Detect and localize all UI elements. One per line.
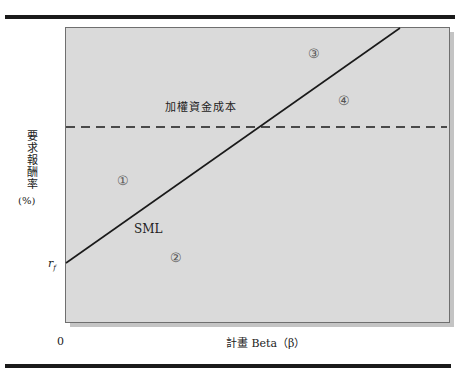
sml-line [66,28,400,263]
region-4-marker: ④ [338,93,350,108]
region-2-marker: ② [170,250,182,265]
sml-label: SML [134,222,162,236]
origin-label: 0 [57,335,64,348]
chart-lines [0,0,468,377]
region-3-marker: ③ [308,46,320,61]
region-1-marker: ① [117,173,129,188]
wacc-label: 加權資金成本 [165,98,237,114]
x-axis-label: 計畫 Beta（β） [226,334,305,350]
risk-free-rate-label: rf [48,257,56,272]
figure: 要求報酬率 (%) rf 0 計畫 Beta（β） 加權資金成本 SML ① ②… [0,0,468,377]
bottom-rule [5,364,451,368]
y-axis-label: 要求報酬率 [22,130,38,190]
rf-sub: f [53,264,56,272]
y-axis-unit: (%) [18,195,35,206]
